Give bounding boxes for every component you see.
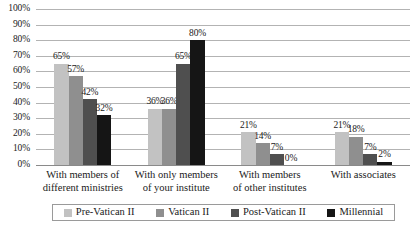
legend-item[interactable]: Post-Vatican II: [229, 207, 308, 218]
bar-group: 65%57%42%32%: [54, 9, 111, 165]
bar-value-label: 18%: [348, 125, 365, 135]
y-axis-tick-label: 30%: [13, 113, 30, 123]
bar-slot: 32%: [97, 9, 111, 165]
legend-label: Millennial: [339, 207, 383, 218]
bar-value-label: 57%: [67, 65, 84, 75]
bar-value-label: 80%: [189, 29, 206, 39]
bar: [377, 162, 391, 165]
bar-value-label: 42%: [81, 88, 98, 98]
bar: [270, 154, 284, 165]
bar: [349, 137, 363, 165]
bar-slot: 21%: [241, 9, 255, 165]
x-axis-category-line: of other institutes: [215, 181, 325, 194]
bar: [54, 64, 68, 165]
legend-swatch-icon: [64, 209, 72, 217]
bar: [97, 115, 111, 165]
legend-label: Vatican II: [168, 207, 209, 218]
chart-legend: Pre-Vatican IIVatican IIPost-Vatican IIM…: [52, 204, 395, 221]
bar-group: 21%18%7%2%: [335, 9, 392, 165]
bar-value-label: 65%: [53, 52, 70, 62]
bar-value-label: 65%: [175, 52, 192, 62]
bar-slot: 14%: [256, 9, 270, 165]
bar: [148, 109, 162, 165]
bar-slot: 80%: [190, 9, 204, 165]
bar-chart: 0%10%20%30%40%50%60%70%80%90%100% 65%57%…: [0, 0, 418, 229]
bar-slot: 0%: [284, 9, 298, 165]
bar-slot: 2%: [377, 9, 391, 165]
bar-value-label: 32%: [96, 104, 113, 114]
axis-baseline: [36, 165, 410, 166]
x-axis-category-line: With associates: [309, 168, 418, 181]
y-axis-tick-label: 90%: [13, 20, 30, 30]
bar-value-label: 7%: [364, 143, 376, 153]
bar-value-label: 36%: [161, 97, 178, 107]
bar-group: 21%14%7%0%: [241, 9, 298, 165]
legend-swatch-icon: [231, 209, 239, 217]
y-axis-tick-label: 40%: [13, 98, 30, 108]
bar-value-label: 7%: [271, 143, 283, 153]
y-axis-tick-label: 100%: [8, 4, 30, 14]
legend-label: Pre-Vatican II: [76, 207, 135, 218]
y-axis-tick-label: 60%: [13, 67, 30, 77]
bar-slot: 65%: [54, 9, 68, 165]
bar-slot: 36%: [162, 9, 176, 165]
bar-slot: 36%: [148, 9, 162, 165]
bar-value-label: 0%: [285, 154, 297, 164]
legend-swatch-icon: [327, 209, 335, 217]
y-axis-tick-label: 50%: [13, 82, 30, 92]
legend-item[interactable]: Vatican II: [154, 207, 211, 218]
y-axis-tick-label: 10%: [13, 145, 30, 155]
bar-group: 36%36%65%80%: [148, 9, 205, 165]
x-axis-category-label: With associates: [309, 168, 418, 181]
bar-groups: 65%57%42%32%36%36%65%80%21%14%7%0%21%18%…: [36, 9, 410, 165]
legend-swatch-icon: [156, 209, 164, 217]
legend-item[interactable]: Millennial: [325, 207, 385, 218]
y-axis-tick-labels: 0%10%20%30%40%50%60%70%80%90%100%: [0, 9, 34, 165]
x-axis-category-labels: With members ofdifferent ministriesWith …: [36, 168, 410, 200]
y-axis-tick-label: 80%: [13, 35, 30, 45]
bar-value-label: 14%: [254, 132, 271, 142]
bar: [335, 132, 349, 165]
bar: [256, 143, 270, 165]
bar-slot: 7%: [270, 9, 284, 165]
bar-value-label: 21%: [240, 121, 257, 131]
bar: [190, 40, 204, 165]
bar-slot: 18%: [349, 9, 363, 165]
legend-label: Post-Vatican II: [243, 207, 306, 218]
bar-slot: 42%: [83, 9, 97, 165]
bar: [176, 64, 190, 165]
y-axis-tick-label: 20%: [13, 129, 30, 139]
y-axis-tick-label: 70%: [13, 51, 30, 61]
bar-slot: 7%: [363, 9, 377, 165]
bar: [162, 109, 176, 165]
bar-slot: 21%: [335, 9, 349, 165]
legend-item[interactable]: Pre-Vatican II: [62, 207, 137, 218]
bar-value-label: 2%: [378, 150, 390, 160]
bar: [363, 154, 377, 165]
